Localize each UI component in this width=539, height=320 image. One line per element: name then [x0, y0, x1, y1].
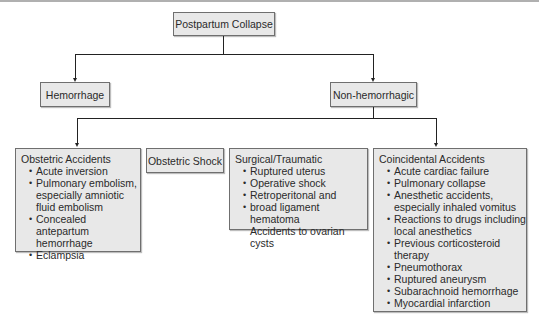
list-item: Pulmonary collapse — [387, 177, 526, 189]
list-item: Myocardial infarction — [387, 297, 526, 309]
node-title: Coincidental Accidents — [379, 153, 526, 165]
connector-to-obstetric-accidents — [77, 118, 78, 143]
top-border — [0, 0, 539, 2]
list-item-continuation: especially inhaled vomitus — [387, 201, 526, 213]
node-obstetric-accidents: Obstetric Accidents Acute inversion Pulm… — [15, 148, 141, 252]
list-item: Retroperitonal and — [243, 189, 367, 201]
node-surgical-traumatic: Surgical/Traumatic Ruptured uterus Opera… — [229, 148, 368, 230]
item-list: Ruptured uterus Operative shock Retroper… — [235, 165, 367, 249]
node-label: Postpartum Collapse — [175, 18, 272, 30]
list-item: Ruptured uterus — [243, 165, 367, 177]
list-item-continuation: therapy — [387, 249, 526, 261]
node-title: Surgical/Traumatic — [235, 153, 367, 165]
node-label: Non-hemorrhagic — [333, 89, 414, 101]
list-item: Acute inversion — [29, 165, 140, 177]
list-item: Anesthetic accidents, — [387, 189, 526, 201]
node-obstetric-shock: Obstetric Shock — [146, 148, 224, 173]
list-item: Operative shock — [243, 177, 367, 189]
node-non-hemorrhagic: Non-hemorrhagic — [330, 82, 417, 107]
list-item-continuation: Accidents to ovarian cysts — [243, 225, 367, 249]
connector-to-hemorrhage — [75, 54, 76, 78]
node-label: Obstetric Shock — [148, 155, 222, 167]
list-item: Previous corticosteroid — [387, 237, 526, 249]
list-item-continuation: especially amniotic — [29, 189, 140, 201]
connector-to-coincidental-accidents — [436, 118, 437, 143]
node-label: Hemorrhage — [46, 89, 104, 101]
list-item: Reactions to drugs including — [387, 213, 526, 225]
list-item: Acute cardiac failure — [387, 165, 526, 177]
list-item-continuation: fluid embolism — [29, 201, 140, 213]
node-title: Obstetric Accidents — [21, 153, 140, 165]
list-item: Subarachnoid hemorrhage — [387, 285, 526, 297]
item-list: Acute cardiac failure Pulmonary collapse… — [379, 165, 526, 309]
connector-root-down — [223, 36, 224, 54]
connector-level2-horizontal — [77, 118, 437, 119]
list-item-continuation: hemorrhage — [29, 237, 140, 249]
connector-level1-horizontal — [75, 54, 374, 55]
list-item: Ruptured aneurysm — [387, 273, 526, 285]
node-postpartum-collapse: Postpartum Collapse — [173, 12, 275, 36]
node-hemorrhage: Hemorrhage — [40, 82, 110, 107]
node-coincidental-accidents: Coincidental Accidents Acute cardiac fai… — [373, 148, 527, 312]
connector-to-non-hemorrhagic — [373, 54, 374, 78]
connector-non-hemorrhagic-down — [373, 107, 374, 118]
list-item: Pulmonary embolism, — [29, 177, 140, 189]
arrow-down-icon — [434, 143, 438, 147]
list-item: broad ligament hematoma — [243, 201, 367, 225]
list-item: Concealed antepartum — [29, 213, 140, 237]
arrow-down-icon — [75, 143, 79, 147]
list-item: Pneumothorax — [387, 261, 526, 273]
item-list: Acute inversion Pulmonary embolism, espe… — [21, 165, 140, 261]
list-item: Eclampsia — [29, 249, 140, 261]
list-item-continuation: local anesthetics — [387, 225, 526, 237]
